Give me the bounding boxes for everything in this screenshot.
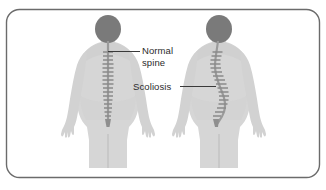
illustration-frame bbox=[7, 10, 320, 178]
spine-comparison-illustration bbox=[0, 0, 326, 190]
scoliosis-label-line1: Scoliosis bbox=[133, 81, 171, 92]
illustration-container: Normal spine Scoliosis bbox=[0, 0, 326, 190]
normal-spine-label-line2: spine bbox=[142, 57, 173, 69]
scoliosis-label: Scoliosis bbox=[133, 81, 171, 93]
normal-spine-label: Normal spine bbox=[142, 45, 173, 68]
normal-spine-label-line1: Normal bbox=[142, 45, 173, 56]
scoliosis-figure-head bbox=[206, 15, 232, 43]
normal-figure-head bbox=[95, 15, 121, 43]
